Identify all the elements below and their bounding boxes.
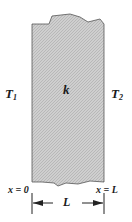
dimension-label: L	[63, 195, 70, 210]
left-temperature-label: T1	[5, 86, 17, 102]
slab	[32, 14, 104, 186]
temperature-symbol: T	[5, 86, 13, 101]
temperature-subscript: 2	[119, 93, 123, 102]
conductivity-label: k	[63, 82, 70, 98]
temperature-symbol: T	[111, 86, 119, 101]
temperature-subscript: 1	[13, 93, 17, 102]
left-boundary-label: x = 0	[8, 184, 29, 195]
right-temperature-label: T2	[111, 86, 123, 102]
right-boundary-label: x = L	[96, 184, 118, 195]
